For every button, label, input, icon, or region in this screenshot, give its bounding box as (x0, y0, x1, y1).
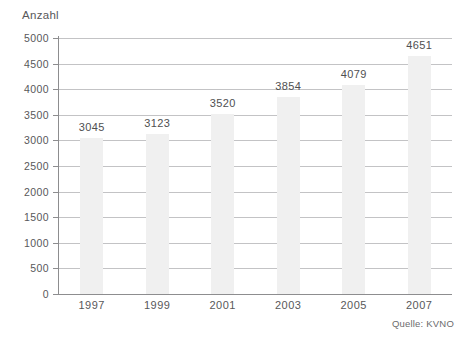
y-axis-tick-label: 0 (5, 288, 49, 300)
bar-value-label: 3854 (258, 80, 318, 92)
y-axis-tick (53, 140, 59, 141)
y-axis-tick (53, 217, 59, 218)
bar (211, 114, 234, 294)
bar-value-label: 3123 (127, 117, 187, 129)
y-axis-tick (53, 38, 59, 39)
bar (342, 85, 365, 294)
bar-value-label: 3520 (193, 97, 253, 109)
y-axis-tick-label: 1000 (5, 237, 49, 249)
x-axis-tick-label: 2007 (389, 299, 449, 311)
gridline (59, 243, 452, 244)
x-axis-tick-label: 1997 (62, 299, 122, 311)
y-axis-tick (53, 294, 59, 295)
source-note: Quelle: KVNO (392, 318, 454, 329)
y-axis-tick-label: 2500 (5, 160, 49, 172)
y-axis-tick-label: 2000 (5, 186, 49, 198)
y-axis-tick (53, 115, 59, 116)
y-axis-tick (53, 268, 59, 269)
bar-value-label: 4079 (324, 68, 384, 80)
x-axis-tick-label: 2005 (324, 299, 384, 311)
gridline (59, 192, 452, 193)
x-axis-tick-label: 1999 (127, 299, 187, 311)
y-axis-tick (53, 243, 59, 244)
x-axis-tick-labels: 199719992001200320052007 (59, 299, 452, 317)
bar-value-label: 3045 (62, 121, 122, 133)
gridline (59, 64, 452, 65)
gridline (59, 166, 452, 167)
y-axis-tick (53, 89, 59, 90)
y-axis-tick-label: 3000 (5, 134, 49, 146)
gridline (59, 294, 452, 295)
gridline (59, 140, 452, 141)
gridline (59, 89, 452, 90)
bar (146, 134, 169, 294)
bar (277, 97, 300, 294)
y-axis-tick-label: 5000 (5, 32, 49, 44)
plot-area (59, 38, 452, 294)
y-axis-tick-label: 1500 (5, 211, 49, 223)
y-axis-tick-label: 4500 (5, 58, 49, 70)
y-axis-tick-label: 4000 (5, 83, 49, 95)
y-axis-tick-labels: 0500100015002000250030003500400045005000 (0, 0, 49, 341)
x-axis-tick-label: 2003 (258, 299, 318, 311)
gridline (59, 268, 452, 269)
x-axis-tick-label: 2001 (193, 299, 253, 311)
y-axis-tick-label: 500 (5, 262, 49, 274)
y-axis-tick (53, 192, 59, 193)
y-axis-tick (53, 64, 59, 65)
y-axis-tick-label: 3500 (5, 109, 49, 121)
gridline (59, 115, 452, 116)
bar-chart: Anzahl 050010001500200025003000350040004… (0, 0, 467, 341)
y-axis-tick (53, 166, 59, 167)
gridline (59, 217, 452, 218)
bar (408, 56, 431, 294)
bar (80, 138, 103, 294)
bar-value-label: 4651 (389, 39, 449, 51)
